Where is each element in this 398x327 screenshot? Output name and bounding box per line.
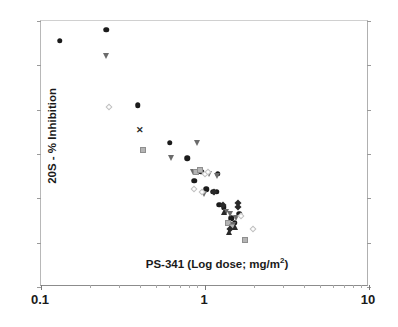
x-axis-tick-minor bbox=[189, 285, 190, 288]
x-axis-tick-minor bbox=[333, 285, 334, 288]
data-point-black-circle bbox=[104, 27, 110, 33]
y-axis-tick-left bbox=[37, 65, 41, 66]
data-point-gray-triangle-down bbox=[214, 173, 220, 179]
x-axis-title: PS-341 (Log dose; mg/m2) bbox=[0, 256, 398, 270]
x-axis-tick-minor bbox=[344, 285, 345, 288]
data-point-black-circle bbox=[57, 38, 63, 44]
y-axis-tick-left bbox=[37, 198, 41, 199]
x-axis-tick-major bbox=[205, 285, 206, 290]
x-axis-tick-label: 0.1 bbox=[31, 292, 49, 307]
chart-figure: ✕ 0204060801001200.1110 20S - % Inhibiti… bbox=[0, 0, 398, 327]
y-axis-tick-left bbox=[37, 21, 41, 22]
x-axis-tick-minor bbox=[254, 285, 255, 288]
data-point-gray-triangle-down bbox=[194, 140, 200, 146]
x-axis-tick-minor bbox=[140, 285, 141, 288]
x-axis-tick-minor bbox=[320, 285, 321, 288]
x-axis-tick-label: 1 bbox=[200, 292, 207, 307]
y-axis-tick-right bbox=[367, 110, 371, 111]
x-axis-tick-minor bbox=[119, 285, 120, 288]
x-axis-tick-minor bbox=[197, 285, 198, 288]
y-axis-tick-left bbox=[37, 110, 41, 111]
data-point-open-diamond bbox=[191, 186, 198, 193]
x-axis-tick-minor bbox=[156, 285, 157, 288]
x-axis-tick-minor bbox=[361, 285, 362, 288]
data-point-black-circle bbox=[185, 156, 191, 162]
data-point-black-circle bbox=[192, 178, 198, 184]
data-point-gray-square bbox=[140, 147, 146, 153]
data-point-gray-square bbox=[242, 237, 248, 243]
x-axis-tick-minor bbox=[169, 285, 170, 288]
x-axis-tick-major bbox=[41, 285, 42, 290]
data-point-dark-triangle-up bbox=[221, 209, 227, 215]
y-axis-title: 20S - % Inhibition bbox=[46, 88, 58, 184]
x-axis-tick-minor bbox=[304, 285, 305, 288]
y-axis-tick-right bbox=[367, 21, 371, 22]
x-axis-tick-major bbox=[369, 285, 370, 290]
x-axis-tick-minor bbox=[180, 285, 181, 288]
data-point-x-marker: ✕ bbox=[136, 125, 144, 134]
y-axis-tick-right bbox=[367, 154, 371, 155]
plot-area: ✕ bbox=[40, 20, 368, 286]
x-axis-tick-minor bbox=[90, 285, 91, 288]
x-axis-tick-minor bbox=[283, 285, 284, 288]
y-axis-tick-right bbox=[367, 65, 371, 66]
data-point-dark-diamond bbox=[235, 204, 242, 211]
data-point-gray-triangle-down bbox=[227, 211, 233, 217]
x-axis-title-base: PS-341 (Log dose; mg/m bbox=[146, 258, 280, 270]
data-point-black-circle bbox=[167, 140, 173, 146]
x-axis-tick-label: 10 bbox=[361, 292, 375, 307]
data-point-gray-triangle-down bbox=[103, 53, 109, 59]
x-axis-title-tail: ) bbox=[284, 258, 288, 270]
x-axis-tick-minor bbox=[353, 285, 354, 288]
data-point-gray-triangle-down bbox=[168, 155, 174, 161]
y-axis-tick-left bbox=[37, 154, 41, 155]
data-point-open-diamond bbox=[249, 226, 256, 233]
y-axis-tick-right bbox=[367, 243, 371, 244]
y-axis-tick-left bbox=[37, 243, 41, 244]
data-point-open-diamond bbox=[106, 104, 113, 111]
data-points-layer: ✕ bbox=[41, 21, 367, 285]
y-axis-tick-right bbox=[367, 198, 371, 199]
data-point-dark-triangle-up bbox=[232, 224, 238, 230]
data-point-black-circle bbox=[135, 102, 141, 108]
